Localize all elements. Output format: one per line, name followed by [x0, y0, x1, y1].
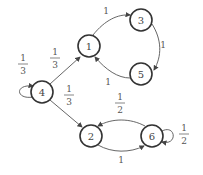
- svg-text:6: 6: [149, 131, 155, 142]
- svg-text:1: 1: [66, 84, 72, 94]
- label-2-6: 1: [118, 155, 124, 165]
- svg-text:1: 1: [20, 53, 26, 63]
- label-6-2: 1 2: [115, 92, 125, 115]
- svg-text:2: 2: [181, 136, 187, 146]
- svg-text:3: 3: [20, 66, 26, 76]
- edge-5-1: [95, 57, 130, 78]
- label-4-1: 1 3: [50, 47, 60, 70]
- svg-text:2: 2: [117, 105, 123, 115]
- svg-text:3: 3: [66, 97, 72, 107]
- svg-text:2: 2: [88, 131, 94, 142]
- svg-text:5: 5: [138, 69, 144, 80]
- edge-3-5: [152, 24, 160, 70]
- edge-2-6: [98, 145, 144, 151]
- edge-6-2: [98, 120, 145, 126]
- node-6: 6: [141, 125, 163, 147]
- svg-text:3: 3: [52, 60, 58, 70]
- svg-text:1: 1: [86, 41, 92, 52]
- svg-text:4: 4: [39, 87, 45, 98]
- label-5-1: 1: [105, 77, 111, 87]
- edge-1-3: [93, 15, 130, 35]
- svg-text:3: 3: [138, 15, 144, 26]
- svg-text:1: 1: [117, 92, 123, 102]
- label-3-5: 1: [160, 40, 166, 50]
- svg-text:1: 1: [52, 47, 58, 57]
- label-4-4: 1 3: [18, 53, 28, 76]
- label-6-6: 1 2: [179, 123, 189, 146]
- node-5: 5: [130, 63, 152, 85]
- label-4-2: 1 3: [64, 84, 74, 107]
- markov-diagram: 1 2 3 4 5 6 1 3 1 3 1 3 1 1 1 1 1 2 1 2: [0, 0, 203, 175]
- node-1: 1: [78, 35, 100, 57]
- label-1-3: 1: [103, 6, 109, 16]
- svg-text:1: 1: [181, 123, 187, 133]
- node-3: 3: [130, 9, 152, 31]
- node-2: 2: [80, 125, 102, 147]
- node-4: 4: [31, 81, 53, 103]
